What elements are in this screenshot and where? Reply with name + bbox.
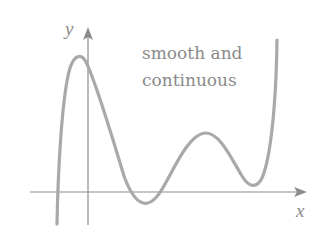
graph-canvas (0, 0, 316, 244)
annotation-text: smooth and continuous (142, 40, 242, 94)
annotation-line-1: smooth and (142, 40, 242, 67)
function-graph-figure: y x smooth and continuous (0, 0, 316, 244)
y-axis-label: y (65, 18, 73, 40)
x-axis-label: x (296, 200, 304, 222)
annotation-line-2: continuous (142, 67, 242, 94)
